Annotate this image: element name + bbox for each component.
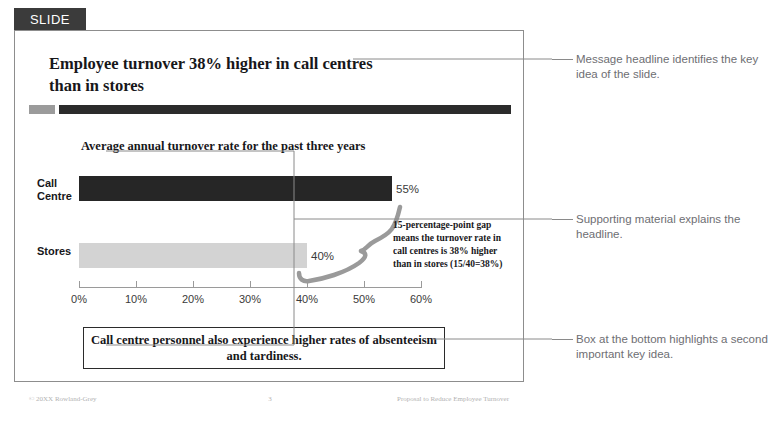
slide-tab-label: SLIDE xyxy=(30,12,70,27)
axis-tick-label-10: 10% xyxy=(125,293,147,305)
axis-tick-60 xyxy=(421,281,422,288)
axis-tick-label-0: 0% xyxy=(71,293,87,305)
axis-tick-label-20: 20% xyxy=(182,293,204,305)
chart-title: Average annual turnover rate for the pas… xyxy=(81,139,365,154)
callout-leader-3 xyxy=(552,339,573,340)
key-idea-box-text: Call centre personnel also experience hi… xyxy=(84,332,444,365)
footer-copyright: © 20XX Rowland-Grey xyxy=(29,395,97,403)
bar-value-call-centre: 55% xyxy=(396,183,419,195)
callout-bottom-box: Box at the bottom highlights a second im… xyxy=(576,332,772,363)
callout-supporting-material: Supporting material explains the headlin… xyxy=(576,212,772,243)
key-idea-box: Call centre personnel also experience hi… xyxy=(83,327,445,369)
gap-brace-icon xyxy=(295,199,405,299)
callout-leader-2 xyxy=(552,219,573,220)
callout-leader-1 xyxy=(552,59,573,60)
callout-headline: Message headline identifies the key idea… xyxy=(576,52,772,83)
gap-annotation: 15-percentage-point gap means the turnov… xyxy=(393,219,509,271)
axis-tick-label-50: 50% xyxy=(353,293,375,305)
slide-footer: © 20XX Rowland-Grey 3 Proposal to Reduce… xyxy=(15,395,525,415)
axis-tick-50 xyxy=(364,281,365,288)
axis-tick-40 xyxy=(307,281,308,288)
axis-tick-label-40: 40% xyxy=(296,293,318,305)
axis-tick-10 xyxy=(136,281,137,288)
axis-tick-label-30: 30% xyxy=(239,293,261,305)
axis-tick-20 xyxy=(193,281,194,288)
footer-page-number: 3 xyxy=(268,395,272,403)
slide-canvas: Employee turnover 38% higher in call cen… xyxy=(14,30,524,382)
chart-category-label-stores: Stores xyxy=(37,245,71,258)
footer-document-title: Proposal to Reduce Employee Turnover xyxy=(397,395,509,403)
bar-stores xyxy=(79,243,307,268)
axis-tick-30 xyxy=(250,281,251,288)
axis-tick-0 xyxy=(79,281,80,288)
slide-tab: SLIDE xyxy=(14,8,86,30)
bar-call-centre xyxy=(79,176,392,201)
axis-tick-label-60: 60% xyxy=(410,293,432,305)
bar-value-stores: 40% xyxy=(311,250,334,262)
chart-category-label-call-centre: CallCentre xyxy=(37,177,72,203)
